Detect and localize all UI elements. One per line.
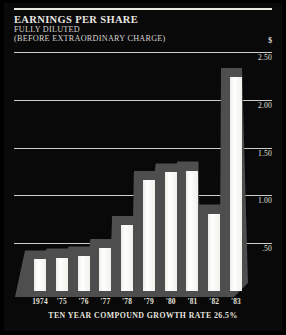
bar-face [99, 248, 111, 291]
chart-footnote: TEN YEAR COMPOUND GROWTH RATE 26.5% [0, 311, 286, 320]
bar-face [230, 77, 242, 291]
x-axis-label-83: '83 [222, 297, 250, 306]
bar-1974 [34, 259, 46, 291]
bar-face [208, 214, 220, 291]
bar-82 [208, 214, 220, 291]
bar-face [121, 225, 133, 291]
bar-75 [56, 258, 68, 291]
bar-81 [186, 171, 198, 291]
earnings-per-share-chart: EARNINGS PER SHARE FULLY DILUTED (BEFORE… [0, 0, 286, 335]
bar-76 [78, 256, 90, 291]
bar-79 [143, 180, 155, 291]
plot-area: $ .501.001.502.002.50 [0, 0, 286, 335]
x-axis-tick-labels: 1974'75'76'77'78'79'80'81'82'83 [0, 297, 286, 308]
bar-face [186, 171, 198, 291]
bar-face [34, 259, 46, 291]
bar-face [56, 258, 68, 291]
bar-77 [99, 248, 111, 291]
bar-78 [121, 225, 133, 291]
bar-83 [230, 77, 242, 291]
bars-layer [0, 0, 286, 335]
bar-face [165, 172, 177, 291]
bar-face [143, 180, 155, 291]
bar-80 [165, 172, 177, 291]
bar-face [78, 256, 90, 291]
